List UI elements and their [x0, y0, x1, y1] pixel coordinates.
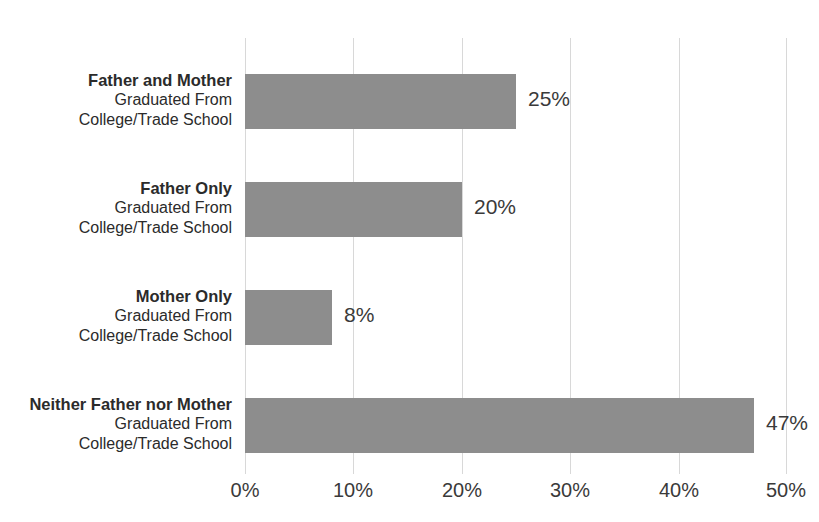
- x-tick-label: 50%: [766, 480, 806, 500]
- category-title: Neither Father nor Mother: [0, 394, 232, 414]
- bar-row: 25%: [245, 60, 787, 144]
- plot-area: 25% 20% 8% 47%: [245, 38, 787, 474]
- bar-value-label: 8%: [344, 304, 374, 325]
- category-title: Mother Only: [0, 286, 232, 306]
- bar-value-label: 47%: [766, 412, 808, 433]
- bar[interactable]: [245, 290, 332, 345]
- category-title: Father and Mother: [0, 70, 232, 90]
- x-tick-label: 20%: [442, 480, 482, 500]
- x-tick-label: 30%: [550, 480, 590, 500]
- category-subtitle-line3: College/Trade School: [0, 218, 232, 238]
- category-label-father-only: Father Only Graduated From College/Trade…: [0, 178, 232, 237]
- category-subtitle-line2: Graduated From: [0, 414, 232, 434]
- category-subtitle-line2: Graduated From: [0, 198, 232, 218]
- bar[interactable]: [245, 182, 462, 237]
- category-label-neither-father-nor-mother: Neither Father nor Mother Graduated From…: [0, 394, 232, 453]
- category-label-mother-only: Mother Only Graduated From College/Trade…: [0, 286, 232, 345]
- bar[interactable]: [245, 74, 516, 129]
- bar-row: 47%: [245, 384, 787, 468]
- category-subtitle-line3: College/Trade School: [0, 326, 232, 346]
- category-subtitle-line2: Graduated From: [0, 90, 232, 110]
- category-title: Father Only: [0, 178, 232, 198]
- bar[interactable]: [245, 398, 754, 453]
- category-label-father-and-mother: Father and Mother Graduated From College…: [0, 70, 232, 129]
- x-tick-label: 0%: [231, 480, 260, 500]
- bar-chart: 25% 20% 8% 47% Father and Mother Graduat…: [0, 0, 819, 522]
- category-subtitle-line2: Graduated From: [0, 306, 232, 326]
- x-tick-label: 40%: [659, 480, 699, 500]
- bar-row: 20%: [245, 168, 787, 252]
- category-subtitle-line3: College/Trade School: [0, 110, 232, 130]
- bar-value-label: 25%: [528, 88, 570, 109]
- category-subtitle-line3: College/Trade School: [0, 434, 232, 454]
- x-axis: 0% 10% 20% 30% 40% 50%: [245, 480, 787, 512]
- x-tick-label: 10%: [333, 480, 373, 500]
- bar-row: 8%: [245, 276, 787, 360]
- bar-value-label: 20%: [474, 196, 516, 217]
